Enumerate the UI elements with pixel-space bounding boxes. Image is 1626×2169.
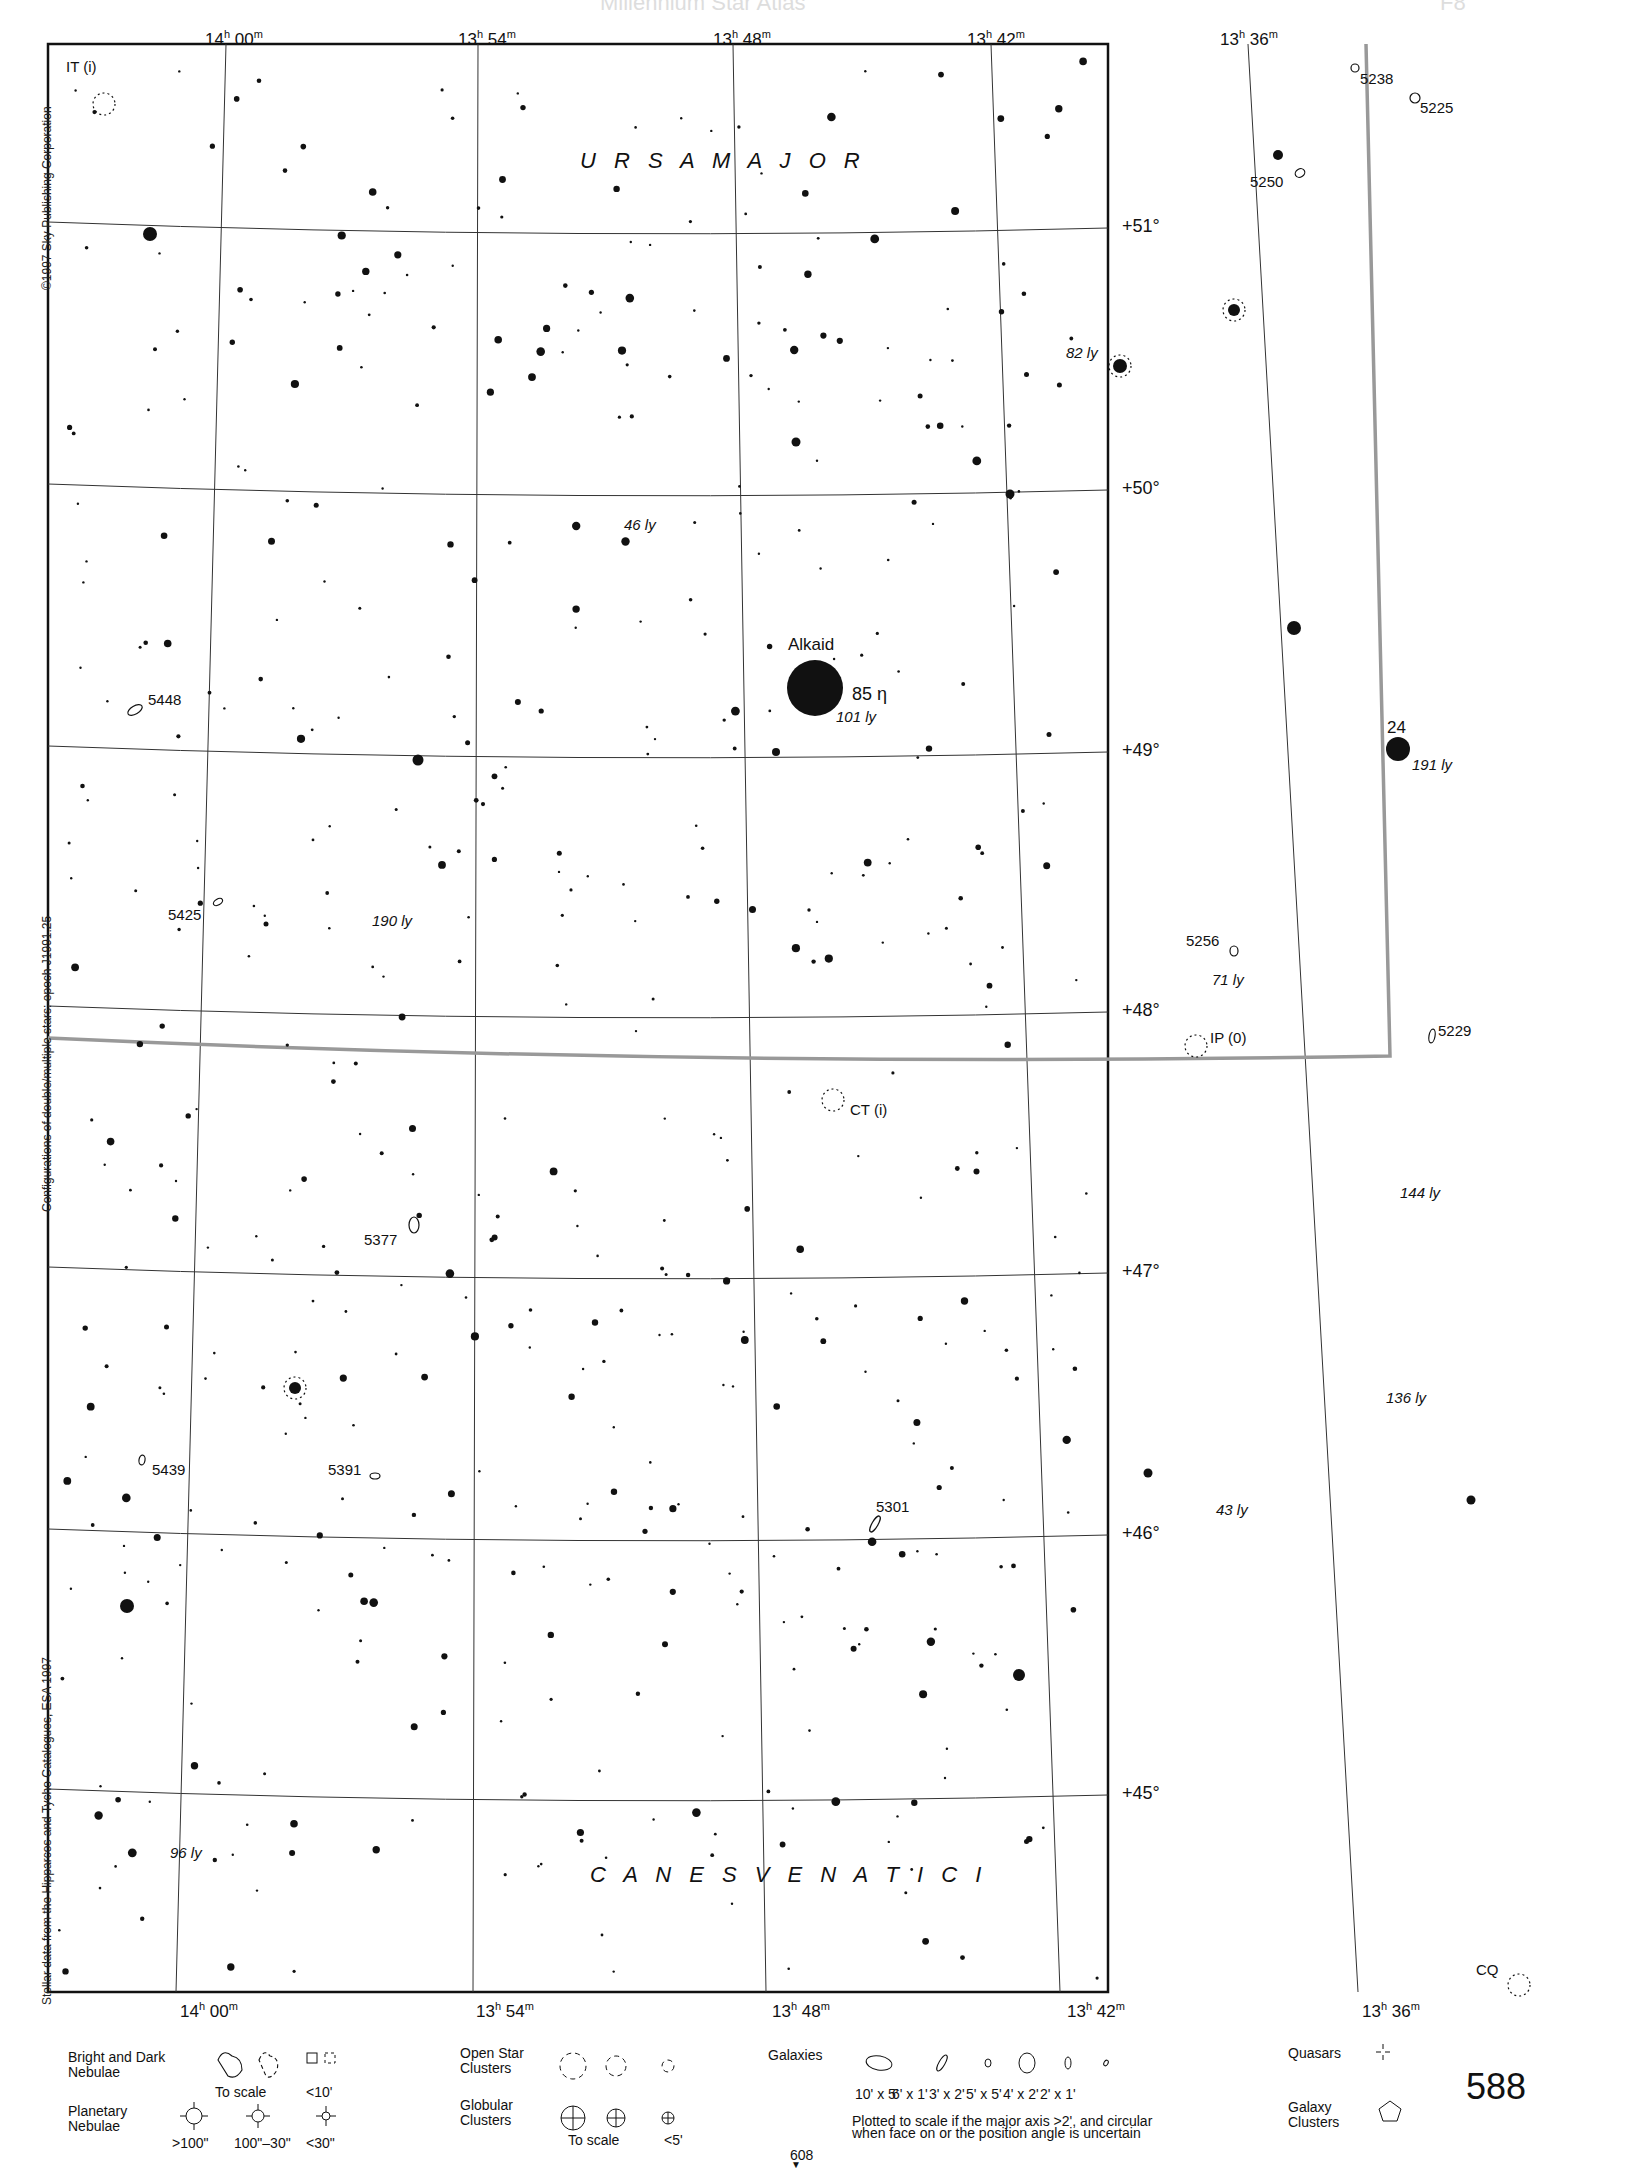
star: [508, 1323, 513, 1328]
star: [736, 1603, 738, 1605]
star: [94, 1811, 102, 1819]
star: [356, 1660, 360, 1664]
star: [204, 1377, 207, 1380]
star: [654, 738, 656, 740]
star: [256, 1889, 258, 1891]
star: [504, 766, 507, 769]
star: [723, 1277, 730, 1284]
star: [817, 237, 820, 240]
star: [780, 1842, 786, 1848]
star: [634, 920, 636, 922]
star: [1016, 1147, 1018, 1149]
star: [70, 877, 72, 879]
legend-planetary-size-2: 100"–30": [234, 2136, 291, 2151]
star: [1045, 134, 1050, 139]
star: [851, 1646, 857, 1652]
star: [695, 825, 698, 828]
star: [592, 1319, 598, 1325]
star: [381, 487, 383, 489]
legend-planetary-size-1: >100": [172, 2136, 209, 2151]
star: [394, 251, 401, 258]
star: [733, 747, 737, 751]
object-label: 5256: [1186, 932, 1219, 949]
star: [582, 1368, 584, 1370]
star: [773, 1403, 780, 1410]
star: [160, 1023, 165, 1028]
star: [292, 707, 294, 709]
object-label: 5301: [876, 1498, 909, 1515]
star: [741, 1336, 749, 1344]
star: [137, 1041, 143, 1047]
dec-tick-label: +49°: [1122, 740, 1160, 761]
star: [1005, 1042, 1011, 1048]
star: [708, 1543, 710, 1545]
planetary-nebula-tick: [316, 2106, 336, 2126]
star: [492, 773, 498, 779]
star: [139, 646, 142, 649]
star: [276, 619, 278, 621]
star: [312, 839, 315, 842]
star: [926, 424, 931, 429]
galaxy-symbol: [1019, 2053, 1035, 2073]
bright-star: [1013, 1669, 1025, 1681]
star: [335, 291, 340, 296]
star: [961, 1297, 968, 1304]
ra-meridian: [1248, 44, 1358, 1992]
star: [304, 1417, 306, 1419]
star: [1022, 291, 1027, 296]
star: [58, 1929, 61, 1932]
bright-star: [143, 227, 157, 241]
star: [354, 1062, 358, 1066]
star: [158, 1386, 161, 1389]
star: [448, 1490, 455, 1497]
star: [458, 960, 462, 964]
star: [887, 347, 889, 349]
star: [221, 1549, 223, 1551]
star: [744, 1206, 750, 1212]
star: [230, 340, 235, 345]
star: [1067, 1511, 1070, 1514]
star: [540, 1863, 543, 1866]
star: [301, 144, 307, 150]
star: [147, 1581, 149, 1583]
star: [237, 287, 243, 293]
star: [1043, 802, 1045, 804]
star: [820, 1338, 826, 1344]
star: [1005, 1349, 1009, 1353]
star: [958, 896, 963, 901]
star: [465, 1296, 468, 1299]
star: [325, 891, 329, 895]
star: [929, 359, 931, 361]
star: [517, 92, 519, 94]
star: [802, 190, 809, 197]
star: [649, 1506, 653, 1510]
star: [891, 1071, 894, 1074]
variable-star-ring: [1185, 1035, 1207, 1057]
object-label: 5425: [168, 906, 201, 923]
star: [68, 842, 71, 845]
star: [329, 825, 331, 827]
star: [882, 941, 884, 943]
dec-parallel: [48, 1006, 1108, 1018]
star: [728, 1572, 730, 1574]
star: [670, 1589, 676, 1595]
star: [500, 1720, 502, 1722]
star: [314, 503, 319, 508]
galaxy: [212, 897, 224, 907]
galaxy-symbol: [1103, 2059, 1109, 2066]
star: [1071, 1607, 1077, 1613]
bright-star: [792, 438, 801, 447]
star: [587, 875, 589, 877]
star: [499, 176, 506, 183]
star: [737, 125, 740, 128]
star: [854, 1304, 857, 1307]
star: [383, 1547, 385, 1549]
object-label: 82 ly: [1066, 344, 1099, 361]
star: [790, 1292, 792, 1294]
star: [244, 469, 246, 471]
star: [1054, 1236, 1057, 1239]
galaxy: [1230, 946, 1238, 956]
next-page-arrow-icon[interactable]: ▼: [791, 2157, 801, 2169]
star: [864, 859, 872, 867]
star: [140, 1917, 144, 1921]
